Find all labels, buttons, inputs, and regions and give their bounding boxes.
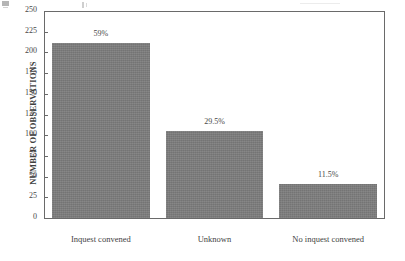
y-tick-label: 50 <box>29 171 37 180</box>
x-axis-category-label: Unknown <box>158 234 272 244</box>
x-axis-category-label: No inquest convened <box>271 234 385 244</box>
y-tick-label: 100 <box>25 129 37 138</box>
y-tick-label: 225 <box>25 26 37 35</box>
y-tick-label: 125 <box>25 109 37 118</box>
bar <box>279 184 377 218</box>
y-tick-label: 0 <box>33 212 37 221</box>
y-tick-label: 250 <box>25 5 37 14</box>
bar <box>52 43 150 218</box>
y-tick-label: 200 <box>25 46 37 55</box>
y-tick-label: 150 <box>25 88 37 97</box>
y-tick-label: 175 <box>25 67 37 76</box>
bar-value-label: 11.5% <box>271 170 385 179</box>
y-axis-title: NUMBER OF OBSERVATIONS <box>28 28 38 218</box>
bar-value-label: 29.5% <box>158 117 272 126</box>
bar <box>166 131 264 218</box>
y-tick-label: 75 <box>29 150 37 159</box>
bar-chart: NUMBER OF OBSERVATIONS 02550751001251501… <box>0 0 405 261</box>
x-axis-baseline <box>44 218 385 219</box>
bar-value-label: 59% <box>44 29 158 38</box>
x-axis-category-label: Inquest convened <box>44 234 158 244</box>
y-tick-label: 25 <box>29 191 37 200</box>
